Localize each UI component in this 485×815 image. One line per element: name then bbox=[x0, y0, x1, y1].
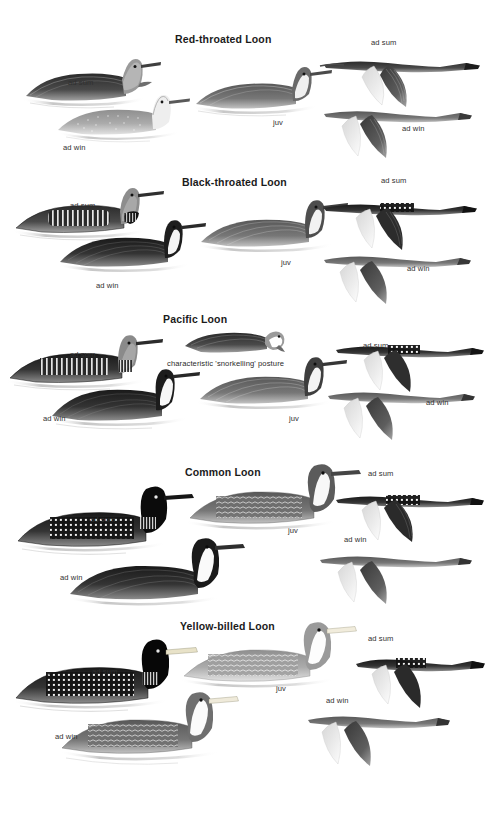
label-ad-sum-flight: ad sum bbox=[381, 176, 407, 185]
figure-ad-win-flight bbox=[316, 98, 474, 160]
label-ad-win-flight: ad win bbox=[407, 264, 430, 273]
label-ad-win-swimming: ad win bbox=[60, 573, 83, 582]
label-ad-win-swimming: ad win bbox=[43, 414, 66, 423]
label-ad-sum-flight: ad sum bbox=[368, 469, 394, 478]
figure-ad-win-swimming bbox=[60, 692, 238, 770]
label-juv-swimming: juv bbox=[288, 526, 298, 535]
label-ad-win-flight: ad win bbox=[344, 535, 367, 544]
species-title: Red-throated Loon bbox=[175, 33, 271, 45]
species-title: Black-throated Loon bbox=[182, 176, 287, 188]
label-ad-win-swimming: ad win bbox=[55, 732, 78, 741]
label-ad-sum-flight: ad sum bbox=[363, 341, 389, 350]
label-juv-swimming: juv bbox=[289, 414, 299, 423]
figure-ad-win-swimming bbox=[68, 538, 244, 616]
figure-ad-win-swimming bbox=[50, 368, 205, 438]
label-ad-win-flight: ad win bbox=[402, 124, 425, 133]
label-ad-win-flight: ad win bbox=[426, 398, 449, 407]
label-ad-sum-swimming: ad sum bbox=[92, 667, 118, 676]
label-ad-sum-swimming: ad sum bbox=[90, 515, 116, 524]
species-title: Pacific Loon bbox=[163, 313, 227, 325]
figure-ad-win-flight bbox=[300, 700, 452, 768]
label-ad-sum-flight: ad sum bbox=[368, 634, 394, 643]
label-juv-swimming: juv bbox=[276, 684, 286, 693]
figure-ad-win-flight bbox=[312, 540, 474, 606]
label-ad-win-swimming: ad win bbox=[63, 143, 86, 152]
field-guide-plate: Red-throated Loon ad sum bbox=[0, 0, 485, 815]
figure-juv-swimming bbox=[192, 62, 334, 122]
label-ad-win-swimming: ad win bbox=[96, 281, 119, 290]
label-ad-sum-swimming: ad sum bbox=[68, 78, 94, 87]
label-juv-swimming: juv bbox=[273, 118, 283, 127]
label-ad-win-flight: ad win bbox=[326, 696, 349, 705]
figure-ad-sum-flight bbox=[318, 186, 478, 250]
figure-ad-win-swimming bbox=[56, 92, 196, 150]
label-ad-sum-flight: ad sum bbox=[371, 38, 397, 47]
figure-ad-win-flight bbox=[316, 242, 472, 304]
label-ad-sum-swimming: ad sum bbox=[70, 201, 96, 210]
figure-ad-win-flight bbox=[320, 378, 476, 442]
figure-juv-swimming bbox=[180, 622, 356, 700]
label-ad-sum-swimming: ad sum bbox=[70, 350, 96, 359]
figure-ad-win-swimming bbox=[58, 218, 210, 284]
label-juv-swimming: juv bbox=[281, 258, 291, 267]
